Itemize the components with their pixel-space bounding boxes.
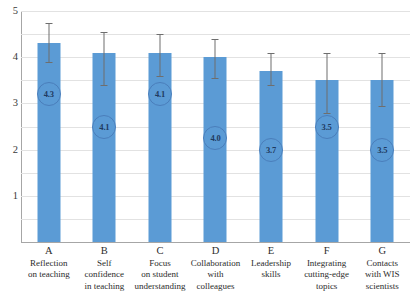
bar[interactable]: [37, 43, 60, 242]
x-axis-category-description: on teaching: [21, 269, 77, 281]
x-axis-tick-labels: AReflectionon teachingBSelfconfidencein …: [21, 245, 410, 303]
error-bar-cap-lower: [379, 106, 386, 107]
x-axis-category-description: in teaching: [77, 281, 133, 293]
x-axis-category-description: with: [188, 269, 244, 281]
bar-slot: 3.7: [243, 11, 299, 242]
x-axis-category-description: on student: [132, 269, 188, 281]
error-bar: [215, 39, 216, 78]
x-axis-category-key: E: [243, 245, 299, 257]
x-axis-category-description: confidence: [77, 269, 133, 281]
x-axis-label-group: AReflectionon teaching: [21, 245, 77, 281]
y-axis-tick-label: 2: [2, 145, 18, 156]
bar-value-label: 4.3: [37, 82, 61, 106]
bar-value-label: 3.7: [259, 138, 283, 162]
error-bar: [104, 32, 105, 85]
y-axis-tick-label: 3: [2, 98, 18, 109]
error-bar-cap-lower: [156, 76, 163, 77]
error-bar-cap-upper: [45, 23, 52, 24]
bar-value-label: 4.1: [92, 115, 116, 139]
x-axis-category-description: Integrating: [299, 258, 355, 270]
error-bar-cap-upper: [101, 32, 108, 33]
error-bar-cap-lower: [268, 85, 275, 86]
x-axis-category-key: F: [299, 245, 355, 257]
x-axis-category-description: Leadership: [243, 258, 299, 270]
error-bar-cap-upper: [323, 53, 330, 54]
error-bar: [159, 34, 160, 76]
error-bar-cap-lower: [101, 85, 108, 86]
x-axis-category-description: with WIS: [354, 269, 410, 281]
x-axis-label-group: ELeadershipskills: [243, 245, 299, 281]
bar-slot: 4.1: [132, 11, 188, 242]
error-bar-cap-lower: [45, 62, 52, 63]
error-bar: [326, 53, 327, 113]
error-bar-cap-lower: [212, 78, 219, 79]
bar-slot: 3.5: [299, 11, 355, 242]
x-axis-label-group: BSelfconfidencein teaching: [77, 245, 133, 292]
plot-area: 4.34.14.14.03.73.53.5: [21, 11, 410, 242]
x-axis-category-description: scientists: [354, 281, 410, 293]
x-axis-label-group: DCollaborationwithcolleagues: [188, 245, 244, 292]
error-bar: [48, 23, 49, 62]
x-axis-category-key: B: [77, 245, 133, 257]
y-axis-tick-label: 5: [2, 6, 18, 17]
x-axis-category-description: colleagues: [188, 281, 244, 293]
bar-value-label: 3.5: [315, 115, 339, 139]
x-axis-category-description: Self: [77, 258, 133, 270]
error-bar-cap-upper: [379, 53, 386, 54]
x-axis-line: [21, 242, 410, 243]
error-bar-cap-upper: [156, 34, 163, 35]
y-axis-tick-label: 4: [2, 52, 18, 63]
x-axis-category-description: Collaboration: [188, 258, 244, 270]
error-bar-cap-upper: [212, 39, 219, 40]
x-axis-category-description: skills: [243, 269, 299, 281]
x-axis-category-description: understanding: [132, 281, 188, 293]
x-axis-category-key: A: [21, 245, 77, 257]
x-axis-category-description: cutting-edge: [299, 269, 355, 281]
error-bar-cap-lower: [323, 113, 330, 114]
x-axis-label-group: FIntegratingcutting-edgetopics: [299, 245, 355, 292]
x-axis-label-group: GContactswith WISscientists: [354, 245, 410, 292]
x-axis-category-key: D: [188, 245, 244, 257]
x-axis-category-description: topics: [299, 281, 355, 293]
bar-slot: 4.1: [77, 11, 133, 242]
bar-value-label: 3.5: [370, 138, 394, 162]
x-axis-label-group: CFocuson studentunderstanding: [132, 245, 188, 292]
error-bar-cap-upper: [268, 53, 275, 54]
bar-slot: 4.3: [21, 11, 77, 242]
y-axis-tick-label: 1: [2, 191, 18, 202]
x-axis-category-description: Reflection: [21, 258, 77, 270]
bar-chart: 12345 4.34.14.14.03.73.53.5 AReflectiono…: [0, 0, 417, 303]
bar-value-label: 4.1: [148, 82, 172, 106]
error-bar: [271, 53, 272, 85]
x-axis-category-key: C: [132, 245, 188, 257]
bar[interactable]: [148, 53, 171, 242]
y-axis-tick-labels: 12345: [0, 11, 18, 242]
x-axis-category-description: Contacts: [354, 258, 410, 270]
error-bar: [382, 53, 383, 106]
x-axis-category-description: Focus: [132, 258, 188, 270]
bar-slot: 3.5: [354, 11, 410, 242]
x-axis-category-key: G: [354, 245, 410, 257]
bar-value-label: 4.0: [203, 126, 227, 150]
bar-slot: 4.0: [188, 11, 244, 242]
